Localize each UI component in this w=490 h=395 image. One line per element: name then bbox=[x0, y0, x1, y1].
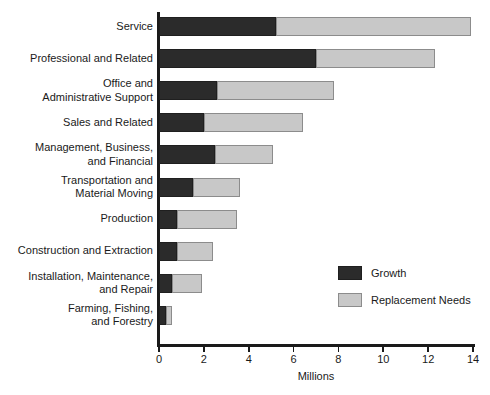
bar-segment bbox=[276, 17, 471, 36]
legend-item-replacement-needs: Replacement Needs bbox=[338, 289, 471, 310]
x-tick-6 bbox=[293, 346, 295, 352]
bar-segment bbox=[172, 274, 201, 293]
x-tick-label-6: 6 bbox=[279, 353, 309, 366]
bar-segment bbox=[159, 178, 193, 197]
bar-segment bbox=[159, 49, 316, 68]
x-tick-label-12: 12 bbox=[413, 353, 443, 366]
x-tick-label-4: 4 bbox=[234, 353, 264, 366]
category-label-6: Production bbox=[100, 212, 153, 226]
bar-segment bbox=[159, 274, 172, 293]
category-label-8: Installation, Maintenance, and Repair bbox=[28, 270, 153, 297]
x-tick-label-2: 2 bbox=[189, 353, 219, 366]
bar-segment bbox=[159, 81, 217, 100]
category-label-4: Management, Business, and Financial bbox=[35, 141, 153, 168]
bar-segment bbox=[159, 306, 166, 325]
legend-label-growth: Growth bbox=[371, 267, 406, 279]
category-label-2: Office and Administrative Support bbox=[42, 77, 153, 104]
bar-segment bbox=[193, 178, 240, 197]
category-label-9: Farming, Fishing, and Forestry bbox=[68, 302, 153, 329]
x-tick-label-0: 0 bbox=[144, 353, 174, 366]
x-axis-title: Millions bbox=[157, 370, 475, 382]
x-tick-label-10: 10 bbox=[368, 353, 398, 366]
bar-segment bbox=[159, 145, 215, 164]
legend-swatch-growth bbox=[338, 266, 362, 280]
bar-segment bbox=[159, 242, 177, 261]
bar-segment bbox=[159, 113, 204, 132]
category-label-1: Professional and Related bbox=[30, 52, 153, 66]
legend-swatch-replacement-needs bbox=[338, 293, 362, 307]
x-tick-12 bbox=[427, 346, 429, 352]
bar-segment bbox=[215, 145, 273, 164]
x-tick-2 bbox=[203, 346, 205, 352]
x-tick-0 bbox=[158, 346, 160, 352]
category-label-3: Sales and Related bbox=[63, 116, 153, 130]
bar-segment bbox=[177, 242, 213, 261]
bar-segment bbox=[204, 113, 303, 132]
x-tick-4 bbox=[248, 346, 250, 352]
bar-segment bbox=[217, 81, 334, 100]
category-label-7: Construction and Extraction bbox=[18, 244, 153, 258]
stacked-bar-chart: 02468101214 ServiceProfessional and Rela… bbox=[0, 0, 490, 395]
x-tick-label-8: 8 bbox=[323, 353, 353, 366]
x-tick-10 bbox=[382, 346, 384, 352]
chart-legend: Growth Replacement Needs bbox=[338, 262, 471, 316]
category-label-5: Transportation and Material Moving bbox=[61, 174, 153, 201]
legend-label-replacement-needs: Replacement Needs bbox=[371, 294, 471, 306]
plot-area: 02468101214 ServiceProfessional and Rela… bbox=[0, 0, 490, 395]
bar-segment bbox=[159, 210, 177, 229]
bar-segment bbox=[316, 49, 435, 68]
category-label-0: Service bbox=[116, 20, 153, 34]
bar-segment bbox=[166, 306, 173, 325]
bar-segment bbox=[159, 17, 276, 36]
x-tick-label-14: 14 bbox=[458, 353, 488, 366]
x-tick-14 bbox=[472, 346, 474, 352]
x-tick-8 bbox=[338, 346, 340, 352]
legend-item-growth: Growth bbox=[338, 262, 471, 283]
bar-segment bbox=[177, 210, 238, 229]
